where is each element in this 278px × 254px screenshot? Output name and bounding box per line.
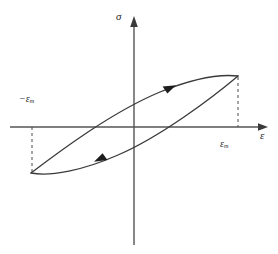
upper-direction-arrow-icon bbox=[163, 85, 176, 93]
direction-arrows-group bbox=[94, 85, 176, 162]
hysteresis-figure: σ ε εm −εm bbox=[0, 0, 278, 254]
x-axis-tick-label-epsilon-m: εm bbox=[220, 139, 229, 150]
epsilon-m-subscript: m bbox=[224, 142, 228, 149]
dashed-guides-group bbox=[32, 77, 238, 173]
x-axis-tick-label-negative-epsilon-m: −εm bbox=[19, 94, 34, 105]
axes-group bbox=[10, 16, 268, 245]
neg-epsilon-m-subscript: m bbox=[30, 97, 34, 104]
x-axis-label-epsilon: ε bbox=[260, 130, 264, 141]
y-axis-arrowhead bbox=[130, 16, 138, 27]
y-axis-label-sigma: σ bbox=[116, 11, 121, 22]
neg-epsilon-m-base: −ε bbox=[19, 93, 30, 104]
hysteresis-loop-plot bbox=[0, 0, 278, 254]
